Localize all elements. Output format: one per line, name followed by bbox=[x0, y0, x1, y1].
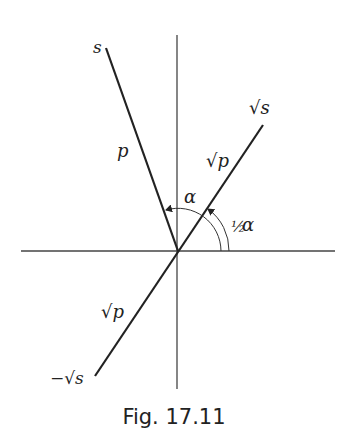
label-neg-sqrt-s: −√s bbox=[50, 368, 84, 388]
label-p: p bbox=[117, 140, 129, 161]
label-sqrt-p-upper: √p bbox=[206, 150, 229, 171]
half-alpha-arc bbox=[208, 209, 229, 251]
figure-caption: Fig. 17.11 bbox=[122, 405, 225, 429]
label-half-alpha: α bbox=[242, 214, 254, 235]
label-s: s bbox=[93, 37, 102, 57]
label-alpha: α bbox=[184, 186, 196, 207]
complex-square-root-diagram: s p √s √p √p −√s α ½ α Fig. 17.11 bbox=[0, 0, 351, 429]
label-sqrt-s: √s bbox=[249, 97, 270, 118]
label-sqrt-p-lower: √p bbox=[101, 301, 124, 322]
